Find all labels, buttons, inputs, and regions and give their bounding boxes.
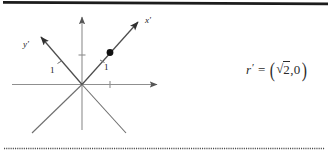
y-prime-axis-line bbox=[41, 37, 82, 85]
equation-square-root: √2 bbox=[276, 61, 290, 78]
x-prime-axis-negative-ray bbox=[32, 85, 82, 134]
y-prime-unit-label: 1 bbox=[50, 65, 55, 75]
y-prime-axis-negative-ray bbox=[82, 85, 126, 134]
bottom-dotted-divider bbox=[4, 147, 325, 150]
equation-r-prime: r′ = ( √2 ,0 ) bbox=[246, 61, 307, 78]
equation-equals-sign: = bbox=[258, 62, 266, 78]
equation-second-component: 0 bbox=[294, 62, 301, 78]
figure-page: x' y' 1 1 r′ = ( √2 ,0 ) bbox=[0, 0, 329, 154]
y-prime-unit-tick bbox=[58, 61, 62, 64]
plotted-point bbox=[107, 49, 114, 56]
y-prime-axis-label: y' bbox=[22, 39, 30, 49]
x-prime-axis-label: x' bbox=[144, 15, 152, 25]
equation-radicand: 2 bbox=[283, 61, 291, 78]
x-prime-unit-label: 1 bbox=[104, 62, 109, 72]
